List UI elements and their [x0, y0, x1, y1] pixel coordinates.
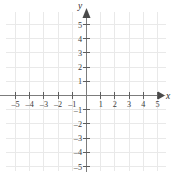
y-tick-label: –4 [73, 148, 82, 157]
x-axis-name: x [165, 91, 171, 101]
x-tick-label: –2 [53, 100, 62, 109]
y-tick-label: 5 [78, 21, 82, 30]
y-tick-label: –5 [73, 163, 82, 172]
x-tick-label: 3 [127, 100, 131, 109]
x-tick-label: 4 [141, 100, 145, 109]
axes-group [0, 8, 165, 172]
x-tick-label: 5 [155, 100, 159, 109]
x-tick-label: –4 [25, 100, 34, 109]
x-axis-arrow-icon [158, 92, 165, 100]
x-tick-label: 2 [113, 100, 117, 109]
x-tick-label: 1 [99, 100, 103, 109]
y-tick-label: –1 [73, 106, 82, 115]
x-tick-label: –5 [10, 100, 19, 109]
axis-names-group: xy [77, 1, 171, 101]
y-axis-arrow-icon [83, 8, 91, 18]
y-tick-label: –3 [73, 134, 82, 143]
y-tick-label: 1 [78, 77, 82, 86]
y-tick-label: 4 [78, 35, 82, 44]
y-axis-name: y [77, 1, 83, 11]
y-tick-label: 2 [78, 63, 82, 72]
y-tick-label: –2 [73, 120, 82, 129]
coordinate-grid-svg: –5–4–3–2–11234554321–1–2–3–4–5 xy [0, 0, 175, 178]
y-tick-label: 3 [78, 49, 82, 58]
x-tick-label: –3 [39, 100, 48, 109]
coordinate-plane-figure: –5–4–3–2–11234554321–1–2–3–4–5 xy [0, 0, 175, 178]
